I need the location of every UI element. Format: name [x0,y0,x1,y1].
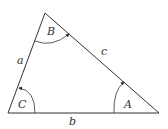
angle-label-C: C [18,98,27,111]
side-label-a: a [17,54,24,67]
angle-label-B: B [46,25,55,38]
side-label-c: c [101,45,107,58]
side-a [8,13,45,113]
angle-arc-A [114,82,124,113]
angle-label-A: A [123,98,132,111]
triangle-diagram: B C A a c b [0,0,168,129]
side-label-b: b [69,115,76,128]
side-c [45,13,159,113]
